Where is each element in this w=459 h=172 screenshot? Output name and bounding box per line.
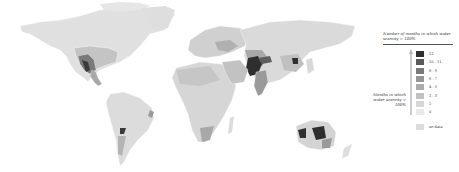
legend-item: 1	[416, 100, 442, 108]
swatch	[416, 109, 424, 115]
swatch	[416, 51, 424, 57]
legend-title: Number of months in which water scarcity…	[383, 31, 453, 41]
side-label: Months in which water scarcity > 100%	[372, 92, 406, 107]
swatch	[416, 59, 424, 65]
legend-item: 0	[416, 108, 442, 116]
legend-item: 8 - 9	[416, 67, 442, 75]
legend-item: 12	[416, 50, 442, 58]
australia	[296, 120, 352, 158]
legend: Number of months in which water scarcity…	[370, 0, 459, 172]
world-map	[0, 0, 380, 172]
legend-divider	[383, 44, 453, 45]
swatch	[416, 84, 424, 90]
legend-no-data: no data	[416, 124, 443, 130]
legend-item: 4 - 5	[416, 83, 442, 91]
asia	[240, 20, 355, 96]
swatch	[416, 101, 424, 107]
arrow-up-icon	[409, 49, 413, 115]
north-america	[20, 2, 175, 86]
legend-item: 10 - 11	[416, 58, 442, 66]
legend-item: 6 - 7	[416, 75, 442, 83]
legend-item: 2 - 3	[416, 91, 442, 99]
swatch	[416, 124, 424, 130]
swatch	[416, 68, 424, 74]
swatch	[416, 76, 424, 82]
swatch	[416, 93, 424, 99]
legend-swatches: 12 10 - 11 8 - 9 6 - 7 4 - 5 2 - 3 1 0	[416, 50, 442, 116]
south-america	[106, 92, 154, 166]
